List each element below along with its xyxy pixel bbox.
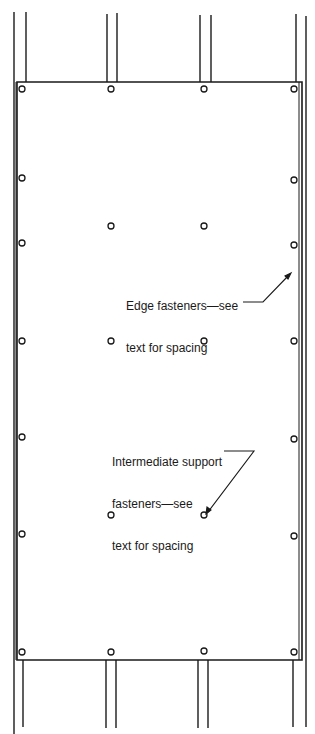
edge-fastener-icon	[291, 177, 297, 183]
edge-label-line-1: Edge fasteners—see	[126, 299, 238, 313]
intermediate-fastener-icon	[108, 338, 114, 344]
edge-fastener-icon	[201, 648, 207, 654]
edge-fastener-leader	[243, 275, 289, 302]
intermediate-fastener-icon	[108, 223, 114, 229]
edge-fastener-icon	[108, 649, 114, 655]
edge-fastener-icon	[19, 531, 25, 537]
intermediate-label-line-2: fasteners—see	[112, 497, 222, 511]
edge-fastener-icon	[291, 533, 297, 539]
edge-fastener-icon	[19, 434, 25, 440]
edge-label-line-2: text for spacing	[126, 341, 238, 355]
edge-fastener-icon	[291, 436, 297, 442]
edge-fastener-icon	[291, 242, 297, 248]
intermediate-label-line-3: text for spacing	[112, 539, 222, 553]
edge-fastener-icon	[291, 649, 297, 655]
edge-fastener-icon	[19, 240, 25, 246]
edge-fastener-icon	[108, 86, 114, 92]
stud-bottom-lines	[23, 660, 293, 728]
edge-fastener-icon	[19, 338, 25, 344]
intermediate-label-line-1: Intermediate support	[112, 455, 222, 469]
intermediate-fastener-label: Intermediate support fasteners—see text …	[112, 427, 222, 567]
edge-fasteners	[19, 86, 297, 655]
edge-fastener-icon	[291, 86, 297, 92]
stud-top-lines	[14, 12, 306, 734]
edge-fastener-icon	[19, 649, 25, 655]
panel-outline	[17, 82, 302, 660]
intermediate-fastener-icon	[201, 223, 207, 229]
edge-fastener-label: Edge fasteners—see text for spacing	[126, 271, 238, 369]
edge-fastener-icon	[19, 175, 25, 181]
edge-fastener-icon	[201, 86, 207, 92]
edge-fastener-icon	[291, 338, 297, 344]
edge-fastener-icon	[19, 86, 25, 92]
